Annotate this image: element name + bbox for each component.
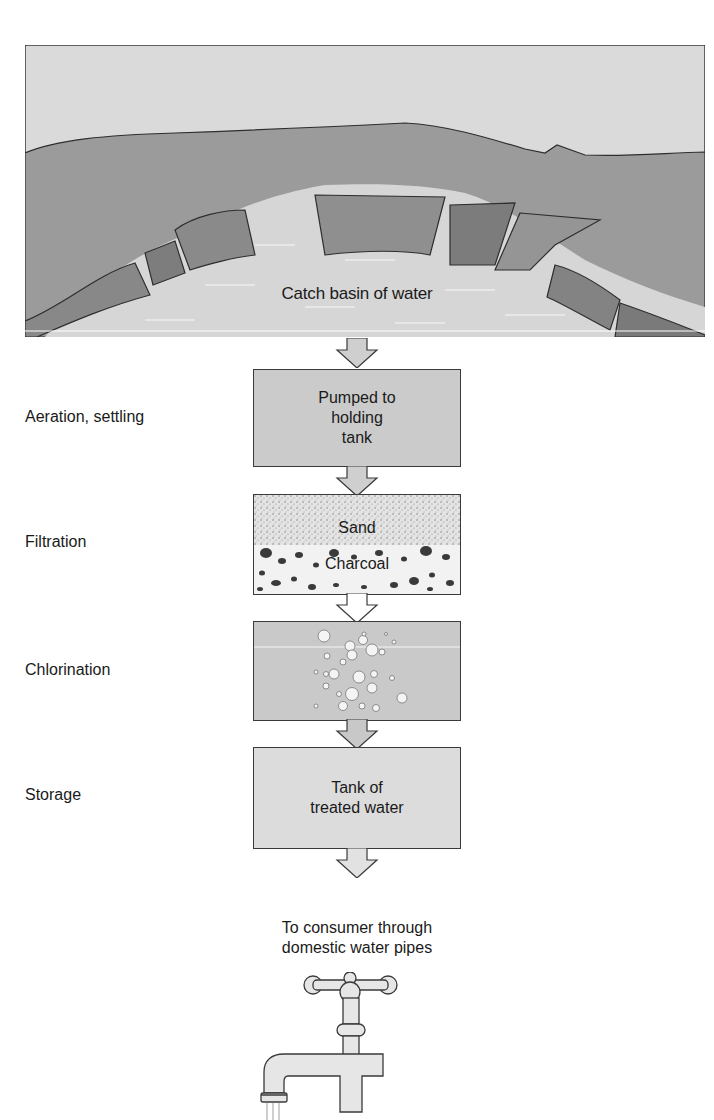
filter-box: Sand Charcoal <box>253 494 461 595</box>
water-tap-icon <box>248 972 398 1120</box>
storage-line-1: Tank of <box>310 778 403 798</box>
consumer-caption: To consumer through domestic water pipes <box>0 918 714 958</box>
storage-line-2: treated water <box>310 798 403 818</box>
consumer-line-1: To consumer through <box>0 918 714 938</box>
sand-label: Sand <box>325 518 389 538</box>
step-label-chlorination: Chlorination <box>25 661 110 679</box>
basin-label: Catch basin of water <box>0 284 714 304</box>
charcoal-label: Charcoal <box>325 554 389 574</box>
step-label-aeration: Aeration, settling <box>25 408 144 426</box>
step-label-storage: Storage <box>25 786 81 804</box>
chlorine-bubbles-icon <box>254 622 460 720</box>
down-arrow-icon <box>335 719 379 749</box>
chlorination-box <box>253 621 461 721</box>
holding-line-3: tank <box>318 428 395 448</box>
storage-tank-box: Tank of treated water <box>253 747 461 849</box>
holding-line-1: Pumped to <box>318 388 395 408</box>
down-arrow-icon <box>335 338 379 368</box>
holding-line-2: holding <box>318 408 395 428</box>
down-arrow-icon <box>335 593 379 623</box>
holding-tank-box: Pumped to holding tank <box>253 369 461 467</box>
down-arrow-icon <box>335 848 379 878</box>
down-arrow-icon <box>335 466 379 496</box>
consumer-line-2: domestic water pipes <box>0 938 714 958</box>
step-label-filtration: Filtration <box>25 533 86 551</box>
